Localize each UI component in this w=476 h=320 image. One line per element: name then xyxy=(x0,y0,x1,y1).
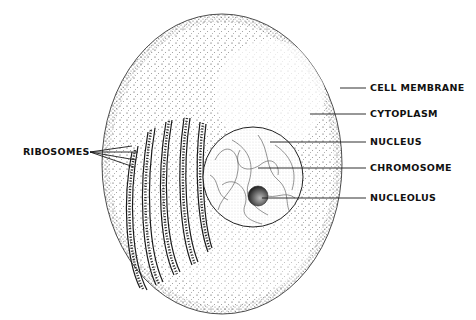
label-cell-membrane: CELL MEMBRANE xyxy=(370,82,465,93)
cell-diagram xyxy=(0,0,476,320)
nucleolus xyxy=(248,186,268,206)
label-nucleus: NUCLEUS xyxy=(370,136,422,147)
label-chromosome: CHROMOSOME xyxy=(370,162,452,173)
label-cytoplasm: CYTOPLASM xyxy=(370,108,438,119)
label-nucleolus: NUCLEOLUS xyxy=(370,192,436,203)
label-ribosomes: RIBOSOMES xyxy=(23,146,90,157)
